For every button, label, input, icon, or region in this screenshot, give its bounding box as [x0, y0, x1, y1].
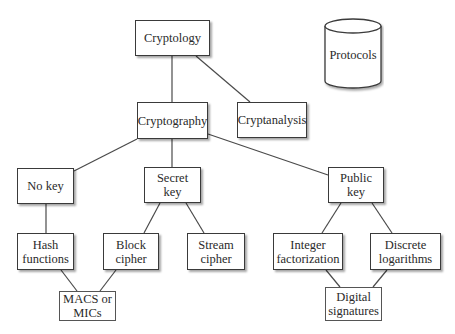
edge-block-macs — [100, 270, 116, 291]
edge-discrete-digital — [373, 270, 387, 287]
edge-cryptography-nokey — [74, 139, 137, 171]
cryptography-node: Cryptography — [137, 102, 208, 139]
cryptanalysis-label: Cryptanalysis — [238, 113, 307, 127]
protocols-node: Protocols — [322, 17, 384, 93]
integer-factorization-label: Integer factorization — [276, 238, 339, 266]
macs-or-mics-node: MACS or MICs — [59, 291, 116, 321]
edge-publickey-discrete — [372, 203, 392, 233]
edges-layer — [0, 0, 455, 334]
no-key-node: No key — [17, 168, 74, 204]
discrete-logarithms-label: Discrete logarithms — [379, 238, 432, 266]
secret-key-label: Secret key — [157, 171, 188, 199]
hash-functions-label: Hash functions — [22, 238, 69, 266]
edge-hash-macs — [61, 270, 77, 291]
secret-key-node: Secret key — [144, 167, 201, 203]
discrete-logarithms-node: Discrete logarithms — [370, 233, 441, 270]
edge-cryptography-publickey — [208, 134, 328, 175]
no-key-label: No key — [27, 179, 63, 193]
cryptanalysis-node: Cryptanalysis — [237, 102, 307, 138]
public-key-label: Public key — [331, 171, 381, 199]
stream-cipher-label: Stream cipher — [198, 238, 233, 266]
integer-factorization-node: Integer factorization — [273, 233, 343, 270]
protocols-label: Protocols — [322, 48, 384, 63]
edge-secretkey-block — [144, 203, 160, 233]
block-cipher-label: Block cipher — [115, 238, 146, 266]
cryptology-label: Cryptology — [144, 31, 201, 45]
digital-signatures-node: Digital signatures — [325, 287, 382, 321]
edge-integer-digital — [326, 270, 340, 287]
public-key-node: Public key — [328, 167, 384, 203]
edge-publickey-integer — [322, 203, 341, 233]
edge-secretkey-stream — [186, 203, 204, 233]
macs-or-mics-label: MACS or MICs — [63, 292, 112, 320]
digital-signatures-label: Digital signatures — [328, 290, 379, 318]
hash-functions-node: Hash functions — [17, 233, 74, 270]
edge-cryptology-cryptanalysis — [196, 56, 250, 102]
cryptography-label: Cryptography — [138, 114, 207, 128]
cryptology-node: Cryptology — [135, 20, 210, 56]
block-cipher-node: Block cipher — [103, 233, 159, 270]
stream-cipher-node: Stream cipher — [187, 233, 245, 270]
